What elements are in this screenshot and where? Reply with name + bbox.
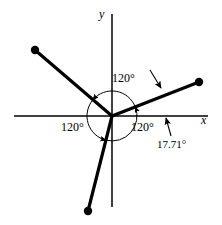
diagram-canvas — [0, 0, 222, 225]
vector-lower-dot — [84, 207, 92, 215]
phasor-diagram-figure: y x 120° 120° 120° 17.71° — [0, 0, 222, 225]
angle-arc-left — [87, 100, 106, 141]
angle-label-right: 120° — [131, 121, 154, 133]
vector-upper-right-dot — [195, 78, 203, 86]
offset-angle-label: 17.71° — [157, 139, 186, 150]
angle-label-left: 120° — [61, 121, 84, 133]
vector-upper-left-dot — [31, 46, 39, 54]
vector-upper-right-line — [112, 82, 199, 116]
y-axis-label: y — [99, 8, 104, 20]
x-axis-label: x — [201, 114, 206, 126]
angle-label-top: 120° — [112, 72, 135, 84]
offset-angle-pointer-arrow — [166, 118, 171, 136]
vector-upper-left-line — [35, 50, 112, 116]
vector-pointer-arrow — [150, 70, 161, 88]
axis-lines — [14, 14, 208, 207]
